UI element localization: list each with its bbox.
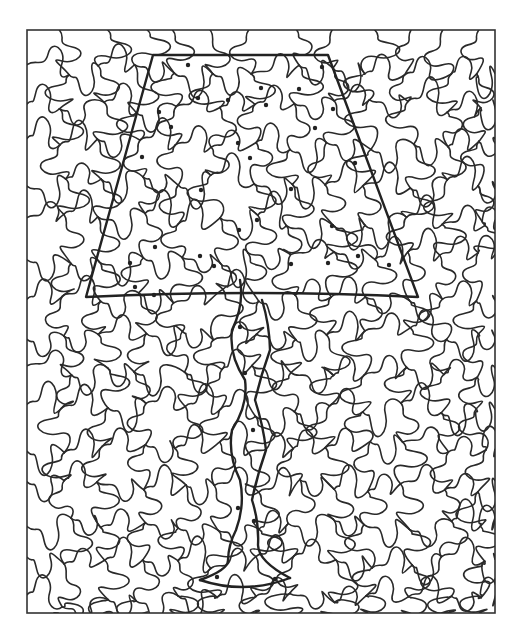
color-dot — [199, 188, 203, 192]
color-dot — [215, 575, 219, 579]
color-dot — [331, 107, 335, 111]
color-dot — [152, 293, 156, 297]
color-dot — [326, 261, 330, 265]
lamp-stem-left — [200, 280, 246, 580]
color-dot — [273, 577, 277, 581]
color-dot — [140, 155, 144, 159]
color-dot — [264, 103, 268, 107]
color-dot — [289, 262, 293, 266]
color-dot — [212, 264, 216, 268]
hidden-picture-puzzle — [0, 0, 526, 638]
color-dot — [255, 218, 259, 222]
color-dot — [353, 161, 357, 165]
color-dot — [387, 263, 391, 267]
color-dot — [186, 63, 190, 67]
color-dot — [259, 86, 263, 90]
color-dot — [248, 156, 252, 160]
color-dot — [289, 187, 293, 191]
color-dot — [238, 325, 242, 329]
color-dot — [133, 285, 137, 289]
color-dot — [157, 110, 161, 114]
color-dot — [128, 261, 132, 265]
color-dot — [297, 87, 301, 91]
color-dot — [252, 519, 256, 523]
color-dot — [313, 126, 317, 130]
color-dot — [243, 371, 247, 375]
color-dot — [153, 245, 157, 249]
color-dot — [320, 65, 324, 69]
color-dot — [169, 125, 173, 129]
color-dot — [356, 254, 360, 258]
color-dot — [330, 224, 334, 228]
color-dot — [251, 428, 255, 432]
color-dot — [196, 96, 200, 100]
color-dot — [198, 254, 202, 258]
color-dot — [236, 506, 240, 510]
color-dot — [237, 228, 241, 232]
lamp-shade — [86, 55, 418, 297]
color-dot — [236, 141, 240, 145]
color-dot — [226, 98, 230, 102]
